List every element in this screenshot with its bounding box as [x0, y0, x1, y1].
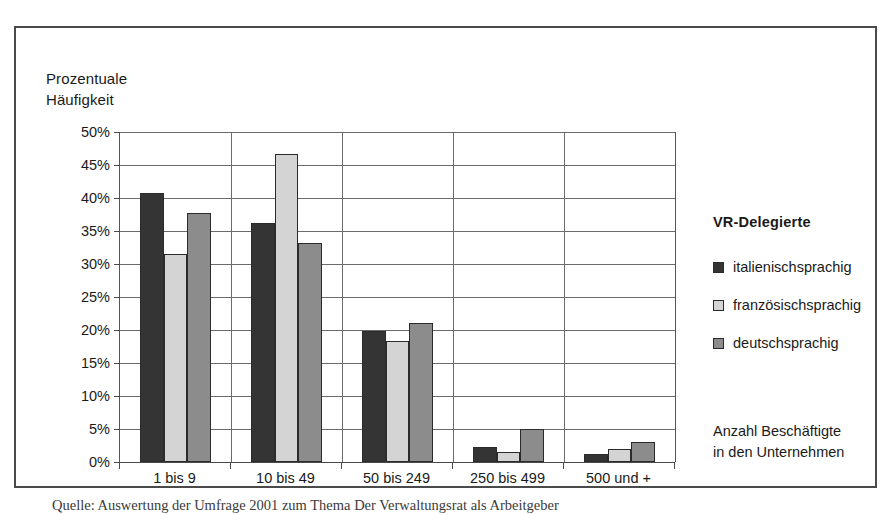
bar[interactable] — [631, 442, 655, 462]
x-axis-title: Anzahl Beschäftigte in den Unternehmen — [713, 421, 844, 463]
plot-area — [119, 132, 676, 462]
bar[interactable] — [584, 454, 608, 462]
legend-item-label: italienischsprachig — [733, 259, 851, 275]
legend-item-label: französischsprachig — [733, 297, 861, 313]
y-axis-tick-label: 20% — [27, 323, 119, 338]
x-axis-tick-label: 250 bis 499 — [452, 471, 563, 486]
bar-group — [231, 132, 342, 462]
bar-group — [453, 132, 564, 462]
source-caption: Quelle: Auswertung der Umfrage 2001 zum … — [52, 497, 872, 514]
bar[interactable] — [187, 213, 211, 462]
y-axis-tick-label: 15% — [27, 356, 119, 371]
bar[interactable] — [520, 429, 544, 462]
y-axis-tick-label: 5% — [27, 422, 119, 437]
bar[interactable] — [251, 223, 275, 462]
chart-frame: 0%5%10%15%20%25%30%35%40%45%50% 1 bis 91… — [14, 26, 877, 488]
bar[interactable] — [140, 193, 164, 462]
bar[interactable] — [298, 243, 322, 462]
x-tick-mark — [674, 462, 675, 469]
y-axis-tick-label: 25% — [27, 290, 119, 305]
legend-item-label: deutschsprachig — [733, 335, 839, 351]
y-axis-tick-label: 30% — [27, 257, 119, 272]
bar-group — [564, 132, 675, 462]
y-axis-tick-label: 0% — [27, 455, 119, 470]
x-axis-tick-label: 1 bis 9 — [119, 471, 230, 486]
bar[interactable] — [409, 323, 433, 462]
legend-items: italienischsprachigfranzösischsprachigde… — [713, 259, 891, 351]
bar[interactable] — [164, 254, 188, 462]
y-axis-title: Prozentuale Häufigkeit — [46, 68, 127, 110]
legend-swatch-icon — [713, 262, 724, 273]
bar[interactable] — [497, 452, 521, 462]
y-axis-tick-label: 10% — [27, 389, 119, 404]
bar[interactable] — [275, 154, 299, 462]
legend: VR-Delegierte italienischsprachigfranzös… — [713, 214, 891, 373]
bar[interactable] — [362, 331, 386, 462]
x-axis-tick-label: 10 bis 49 — [230, 471, 341, 486]
gridline-0 — [120, 462, 675, 463]
y-axis-tick-label: 45% — [27, 158, 119, 173]
y-axis-tick-label: 35% — [27, 224, 119, 239]
legend-title: VR-Delegierte — [713, 214, 891, 230]
bar-group — [342, 132, 453, 462]
x-tick-mark — [119, 462, 120, 469]
x-axis-tick-label: 50 bis 249 — [341, 471, 452, 486]
y-axis-tick-label: 50% — [27, 125, 119, 140]
bar[interactable] — [473, 447, 497, 462]
x-tick-mark — [341, 462, 342, 469]
legend-item[interactable]: französischsprachig — [713, 297, 891, 313]
bar[interactable] — [386, 341, 410, 462]
bar-group — [120, 132, 231, 462]
bar[interactable] — [608, 449, 632, 462]
x-tick-mark — [563, 462, 564, 469]
legend-swatch-icon — [713, 338, 724, 349]
legend-swatch-icon — [713, 300, 724, 311]
x-tick-mark — [230, 462, 231, 469]
legend-item[interactable]: deutschsprachig — [713, 335, 891, 351]
y-axis-tick-label: 40% — [27, 191, 119, 206]
x-tick-mark — [452, 462, 453, 469]
x-axis-tick-label: 500 und + — [563, 471, 674, 486]
legend-item[interactable]: italienischsprachig — [713, 259, 891, 275]
